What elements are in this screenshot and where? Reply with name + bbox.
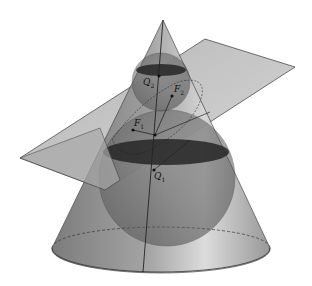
label-q1: Q1 bbox=[154, 172, 165, 183]
point-q2 bbox=[157, 74, 160, 77]
label-f1: F1 bbox=[134, 119, 144, 130]
label-f2: F2 bbox=[174, 85, 184, 96]
dandelin-spheres-diagram: Q2 F2 F1 Q1 bbox=[0, 0, 312, 286]
point-p bbox=[153, 133, 156, 136]
large-contact-circle bbox=[103, 139, 229, 165]
small-dandelin-sphere bbox=[132, 53, 190, 111]
label-q2: Q2 bbox=[143, 78, 154, 89]
small-contact-circle bbox=[136, 64, 186, 76]
diagram-canvas bbox=[0, 0, 312, 286]
